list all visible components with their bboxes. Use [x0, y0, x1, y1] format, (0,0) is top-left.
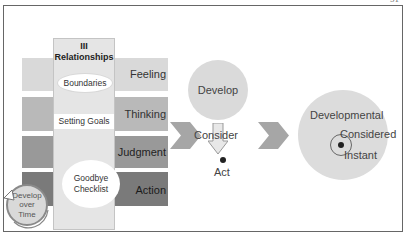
column-title: III Relationships — [53, 41, 115, 63]
column-title-numeral: III — [53, 41, 115, 52]
band-label-thinking: Thinking — [106, 108, 166, 120]
cycle-arrow-icon — [2, 180, 54, 232]
consider-label: Consider — [194, 129, 238, 141]
instant-label: Instant — [344, 149, 377, 161]
checklist-line-2: Checklist — [74, 184, 109, 195]
develop-circle: Develop — [188, 60, 248, 120]
band-label-feeling: Feeling — [106, 68, 166, 80]
checklist-line-1: Goodbye — [74, 173, 109, 184]
instant-dot — [338, 142, 344, 148]
boundaries-cloud: Boundaries — [58, 74, 112, 92]
act-dot — [220, 157, 226, 163]
develop-label: Develop — [198, 84, 238, 96]
band-label-judgment: Judgment — [106, 146, 166, 158]
setting-goals-box: Setting Goals — [54, 114, 114, 129]
column-title-text: Relationships — [53, 52, 115, 63]
chevron-right-icon-2 — [258, 122, 290, 149]
developmental-label: Developmental — [310, 109, 383, 121]
goodbye-checklist-oval: Goodbye Checklist — [62, 160, 120, 208]
page-number: 51 — [390, 0, 399, 4]
act-label: Act — [214, 166, 230, 178]
considered-label: Considered — [340, 128, 396, 140]
